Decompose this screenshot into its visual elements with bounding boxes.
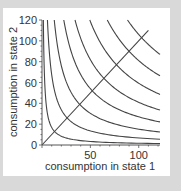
y-axis-label: consumption in state 2 <box>7 27 19 137</box>
y-tick-label: 60 <box>25 77 37 89</box>
y-tick-label: 100 <box>19 35 37 47</box>
y-tick-label: 80 <box>25 56 37 68</box>
indifference-curve <box>128 20 160 54</box>
y-tick-label: 120 <box>19 14 37 26</box>
indifference-curve <box>90 20 160 94</box>
x-axis-label: consumption in state 1 <box>45 160 155 172</box>
y-tick-label: 20 <box>25 118 37 130</box>
y-tick-label: 0 <box>31 139 37 151</box>
indifference-curve-chart: 02040608010012050100 consumption in stat… <box>0 0 181 191</box>
y-tick-label: 40 <box>25 97 37 109</box>
curves-group <box>42 20 160 145</box>
